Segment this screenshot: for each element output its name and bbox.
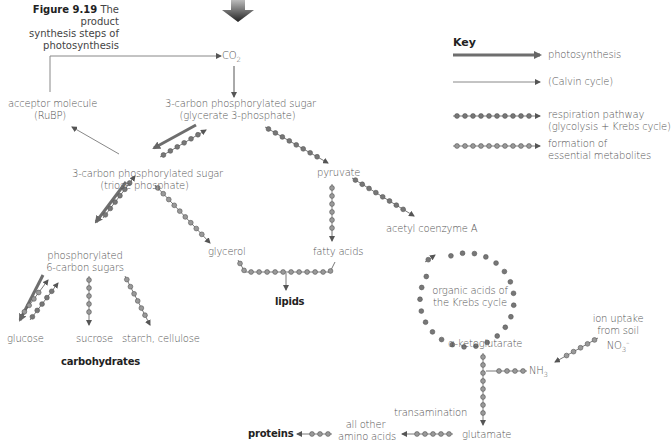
node-krebs-cycle: organic acids ofthe Krebs cycle <box>428 285 512 309</box>
node-lipids: lipids <box>275 296 304 308</box>
node-ion-uptake: ion uptakefrom soilNO3– <box>588 313 648 356</box>
node-proteins: proteins <box>248 428 293 440</box>
node-alpha-ketoglutarate: α-ketoglutarate <box>448 338 522 350</box>
node-co2: CO2 <box>222 50 241 66</box>
calvin-arrow-triose-to-rubp <box>72 127 119 154</box>
node-glycerate-3-phosphate: 3-carbon phosphorylated sugar(glycerate … <box>165 98 310 122</box>
node-glutamate: glutamate <box>462 429 511 441</box>
co2-input-arrow <box>222 0 254 22</box>
node-acetyl-coa: acetyl coenzyme A <box>386 223 477 235</box>
key-label-calvin: (Calvin cycle) <box>548 76 613 88</box>
calvin-arrow-rubp-to-co2 <box>50 56 221 92</box>
node-hexose: phosphorylated6-carbon sugars <box>45 250 125 274</box>
node-pyruvate: pyruvate <box>317 167 360 179</box>
node-acceptor: acceptor molecule(RuBP) <box>8 98 92 122</box>
key-title: Key <box>453 36 476 49</box>
node-glucose: glucose <box>7 333 44 345</box>
figure-caption: Figure 9.19 The product synthesis steps … <box>4 4 119 52</box>
key-label-metabolites: formation ofessential metabolites <box>548 138 651 162</box>
node-triose-phosphate: 3-carbon phosphorylated sugar(triose pho… <box>72 168 217 192</box>
node-other-amino-acids: all otheramino acids <box>338 419 393 443</box>
beaded-pathways <box>22 114 598 437</box>
node-sucrose: sucrose <box>76 333 113 345</box>
label-transamination: transamination <box>394 407 467 419</box>
node-glycerol: glycerol <box>208 246 246 258</box>
key-label-respiration: respiration pathway(glycolysis + Krebs c… <box>548 109 671 133</box>
node-nh3: NH3 <box>529 365 548 381</box>
node-carbohydrates: carbohydrates <box>61 356 140 368</box>
node-starch-cellulose: starch, cellulose <box>122 333 200 345</box>
node-fatty-acids: fatty acids <box>313 246 363 258</box>
key-label-photosynthesis: photosynthesis <box>548 49 621 61</box>
